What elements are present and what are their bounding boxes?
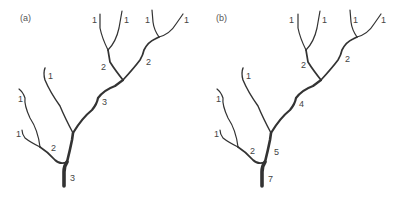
stream-upper-right-2	[123, 37, 159, 80]
stream-network-diagram-a	[0, 0, 200, 199]
stream-upper-right-1b	[357, 14, 381, 37]
order-label: 2	[51, 144, 56, 153]
order-label: 3	[70, 174, 75, 183]
stream-upper-right-1b	[159, 14, 183, 37]
panel-a: (a) 1 1 1 1 2 2 1 3 1 1 2 3	[0, 0, 200, 199]
order-label: 1	[184, 16, 189, 25]
order-label: 1	[16, 130, 21, 139]
stream-mid-4	[271, 80, 321, 133]
panel-label-a: (a)	[20, 13, 31, 23]
order-label: 1	[322, 16, 327, 25]
order-label: 1	[18, 95, 23, 104]
stream-trunk	[265, 133, 271, 162]
order-label: 1	[214, 130, 219, 139]
order-label: 2	[146, 58, 151, 67]
stream-upper-left-1b	[306, 11, 320, 50]
order-label: 1	[124, 16, 129, 25]
panel-b: (b) 1 1 1 1 2 2 1 4 1 1 2 5 7	[200, 0, 399, 199]
stream-trunk	[67, 133, 73, 162]
order-label: 2	[301, 61, 306, 70]
order-label: 3	[102, 98, 107, 107]
order-label: 5	[274, 148, 279, 157]
stream-upper-left-1a	[100, 14, 108, 50]
stream-root	[262, 162, 265, 186]
order-label: 1	[92, 16, 97, 25]
order-label: 1	[381, 16, 386, 25]
stream-upper-left-2	[108, 50, 123, 80]
order-label: 1	[289, 16, 294, 25]
order-label: 1	[246, 72, 251, 81]
order-label: 4	[299, 100, 304, 109]
order-label: 1	[48, 72, 53, 81]
stream-upper-left-2	[306, 50, 321, 80]
order-label: 1	[353, 16, 358, 25]
stream-upper-left-1b	[108, 11, 122, 50]
order-label: 1	[216, 95, 221, 104]
stream-mid-3	[73, 80, 123, 133]
stream-upper-left-1a	[298, 14, 306, 50]
order-label: 7	[268, 175, 273, 184]
order-label: 2	[345, 55, 350, 64]
panel-label-b: (b)	[216, 13, 227, 23]
order-label: 1	[145, 16, 150, 25]
order-label: 2	[250, 147, 255, 156]
stream-upper-right-2	[321, 37, 357, 80]
stream-upper-right-1a	[152, 10, 159, 37]
order-label: 2	[101, 63, 106, 72]
stream-root	[64, 162, 67, 186]
